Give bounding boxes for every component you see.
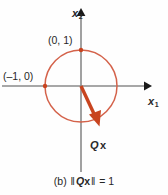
vector-label-qx: Qx	[90, 140, 106, 151]
caption-value: 1	[108, 175, 114, 187]
caption-equals: =	[99, 175, 105, 187]
point-label-minus1-0: (–1, 0)	[3, 71, 33, 82]
x1-axis	[2, 82, 152, 91]
vector-label-matrix: Q	[90, 139, 99, 151]
y-axis-label: x2	[72, 8, 83, 20]
qx-vector-shaft	[81, 86, 96, 117]
qx-vector-arrowhead	[89, 110, 101, 127]
caption-norm-bar-open: ‖	[71, 175, 75, 187]
caption-matrix: Q	[76, 175, 84, 187]
x-axis-label-subscript: 1	[155, 101, 159, 108]
x1-axis-arrowhead	[144, 82, 152, 91]
y-axis-label-subscript: 2	[79, 13, 83, 20]
vector-label-vector: x	[100, 139, 106, 151]
point-marker-0-1	[79, 48, 83, 52]
figure-caption: (b) ‖Qx‖ = 1	[0, 175, 168, 187]
x-axis-label-base: x	[148, 95, 154, 107]
caption-index: (b)	[54, 175, 67, 187]
x-axis-label: x1	[148, 96, 159, 108]
caption-vector: x	[84, 175, 90, 187]
point-label-0-1: (0, 1)	[48, 35, 73, 46]
caption-norm-bar-close: ‖	[91, 175, 95, 187]
point-marker-minus1-0	[43, 84, 47, 88]
unit-circle-figure: x2 x1 (0, 1) (–1, 0) Qx (b) ‖Qx‖ = 1	[0, 0, 168, 195]
y-axis-label-base: x	[72, 7, 78, 19]
plot-canvas	[0, 0, 168, 195]
